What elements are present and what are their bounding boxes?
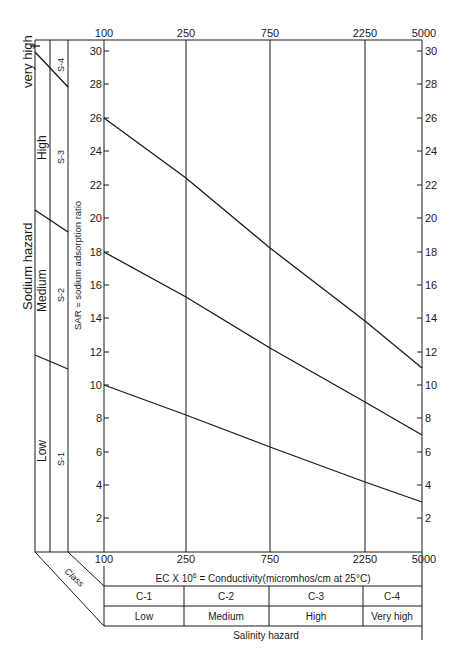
- top-x-label-100: 100: [95, 27, 113, 39]
- left-y-14: 14: [90, 312, 102, 324]
- bottom-x-label-2250: 2250: [353, 553, 377, 565]
- bottom-x-label-5000: 5000: [412, 553, 436, 565]
- c2-label: Medium: [208, 611, 244, 622]
- sodium-hazard-title: Sodium hazard: [20, 223, 35, 310]
- right-y-4: 4: [425, 479, 431, 491]
- top-x-label-750: 750: [261, 27, 279, 39]
- c1-label: Low: [135, 611, 154, 622]
- right-y-26: 26: [425, 112, 437, 124]
- bottom-x-label-750: 750: [261, 553, 279, 565]
- top-x-label-2250: 2250: [353, 27, 377, 39]
- right-y-30: 30: [425, 45, 437, 57]
- right-y-labels: 30 28 26 24 22 20 18 16 14 12 10 8 6 4 2: [425, 45, 437, 524]
- right-y-2: 2: [425, 512, 431, 524]
- sodium-boundary-s3: [35, 210, 68, 232]
- medium-label: Medium: [35, 269, 49, 312]
- s1-label: S-1: [56, 452, 66, 466]
- bottom-x-label-250: 250: [177, 553, 195, 565]
- left-y-20: 20: [90, 212, 102, 224]
- salinity-hazard-title: Salinity hazard: [233, 630, 299, 641]
- left-y-28: 28: [90, 78, 102, 90]
- left-y-2: 2: [96, 512, 102, 524]
- c2-class: C-2: [218, 591, 235, 602]
- right-y-8: 8: [425, 412, 431, 424]
- left-y-22: 22: [90, 179, 102, 191]
- left-y-labels: 30 28 26 24 22 20 18 16 14 12 10 8 6 4 2: [90, 45, 102, 524]
- left-y-8: 8: [96, 412, 102, 424]
- left-y-16: 16: [90, 279, 102, 291]
- right-y-22: 22: [425, 179, 437, 191]
- top-x-label-250: 250: [177, 27, 195, 39]
- bottom-x-label-100: 100: [95, 553, 113, 565]
- c3-class: C-3: [308, 591, 325, 602]
- right-y-14: 14: [425, 312, 437, 324]
- left-y-30: 30: [90, 45, 102, 57]
- right-y-10: 10: [425, 379, 437, 391]
- left-y-24: 24: [90, 145, 102, 157]
- c1-class: C-1: [136, 591, 153, 602]
- left-y-18: 18: [90, 246, 102, 258]
- s3-label: S-3: [56, 150, 66, 164]
- left-y-4: 4: [96, 479, 102, 491]
- sodium-boundary-s2: [35, 355, 68, 369]
- salinity-sodium-hazard-chart: 100 250 750 2250 5000 100 250 750 2250 5…: [0, 0, 454, 658]
- left-y-10: 10: [90, 379, 102, 391]
- high-label: High: [35, 135, 49, 160]
- left-y-12: 12: [90, 346, 102, 358]
- line-s1-s2-boundary: [104, 385, 422, 502]
- very-high-label: very high: [20, 35, 35, 88]
- c4-class: C-4: [384, 591, 401, 602]
- line-s2-s3-boundary: [104, 252, 422, 435]
- right-y-ticks: [417, 51, 422, 518]
- c3-label: High: [306, 611, 327, 622]
- top-x-label-5000: 5000: [412, 27, 436, 39]
- line-s3-s4-boundary: [104, 118, 422, 368]
- s4-label: S-4: [56, 58, 66, 72]
- right-y-20: 20: [425, 212, 437, 224]
- left-y-26: 26: [90, 112, 102, 124]
- c4-label: Very high: [371, 611, 413, 622]
- class-diagonal-outer: [35, 552, 104, 626]
- right-y-24: 24: [425, 145, 437, 157]
- right-y-6: 6: [425, 446, 431, 458]
- left-y-6: 6: [96, 446, 102, 458]
- s2-label: S-2: [56, 288, 66, 302]
- sar-axis-label: SAR = sodium adsorption ratio: [72, 201, 83, 330]
- ec-axis-label: EC X 106 = Conductivity(micromhos/cm at …: [156, 572, 371, 584]
- right-y-28: 28: [425, 78, 437, 90]
- right-y-18: 18: [425, 246, 437, 258]
- right-y-12: 12: [425, 346, 437, 358]
- right-y-16: 16: [425, 279, 437, 291]
- low-label: Low: [35, 440, 49, 462]
